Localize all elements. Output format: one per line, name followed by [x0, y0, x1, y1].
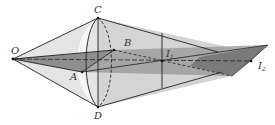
point-i1 — [161, 60, 164, 63]
point-a — [81, 71, 83, 73]
label-a: A — [69, 71, 77, 82]
label-c: C — [94, 4, 102, 15]
point-d — [97, 106, 99, 108]
label-d: D — [93, 110, 102, 121]
label-i2: I2 — [257, 60, 266, 72]
point-c — [97, 17, 99, 19]
point-b — [113, 49, 115, 51]
label-b: B — [123, 37, 131, 48]
label-o: O — [11, 45, 19, 56]
point-i2 — [250, 60, 253, 63]
cone-diagram: O C D A B I1 I2 — [0, 0, 275, 125]
point-o — [12, 58, 15, 61]
